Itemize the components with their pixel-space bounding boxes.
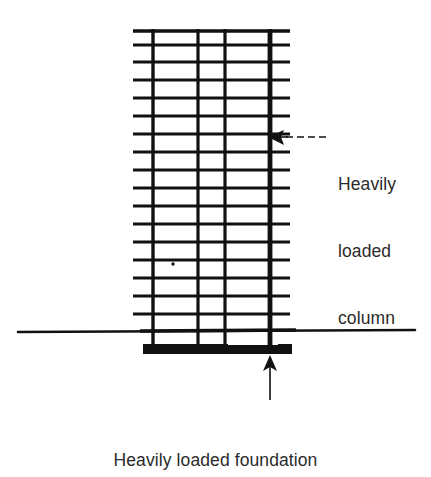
foundation-annotation-line-1: Heavily loaded foundation <box>0 449 431 471</box>
foundation-slab-core <box>143 345 292 354</box>
column-annotation-line-2: loaded <box>338 240 396 262</box>
foundation-slab-group <box>143 344 292 354</box>
heavily-loaded-foundation-annotation: Heavily loaded foundation towards edge o… <box>0 404 431 477</box>
heavily-loaded-column-annotation: Heavily loaded column <box>338 128 396 374</box>
ground-line-thickened-segment <box>140 330 296 331</box>
ink-artifact-dot <box>171 262 174 265</box>
column-callout-leader-group <box>268 130 330 145</box>
foundation-callout-leader-group <box>263 355 277 400</box>
column-annotation-line-1: Heavily <box>338 173 396 195</box>
floor-lines-group <box>133 31 290 314</box>
structural-diagram-figure: Heavily loaded column Heavily loaded fou… <box>0 0 431 477</box>
column-annotation-line-3: column <box>338 307 396 329</box>
